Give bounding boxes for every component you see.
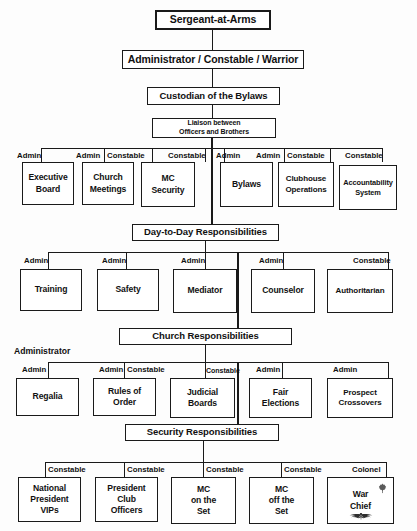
node-administrator-constable-warrior[interactable]: Administrator / Constable / Warrior bbox=[122, 50, 304, 69]
node-sergeant-at-arms[interactable]: Sergeant-at-Arms bbox=[155, 10, 271, 30]
role-caption-constable: Constable bbox=[107, 152, 145, 160]
node-accountability-system[interactable]: Accountability System bbox=[339, 165, 397, 210]
role-caption-constable: Constable bbox=[168, 152, 206, 160]
role-caption-admin: Admin bbox=[256, 152, 280, 160]
drop-row4-b bbox=[124, 462, 125, 477]
node-label-line2: Crossovers bbox=[336, 398, 383, 408]
header-security-responsibilities[interactable]: Security Responsibilities bbox=[125, 424, 279, 441]
node-label-line2: off the bbox=[267, 495, 297, 506]
bus-row1-left bbox=[41, 148, 211, 149]
node-label-line2: Order bbox=[111, 397, 138, 408]
role-caption-constable: Constable bbox=[206, 466, 244, 474]
eagle-insignia-icon bbox=[348, 511, 374, 521]
node-safety[interactable]: Safety bbox=[97, 269, 159, 311]
node-label: Counselor bbox=[260, 285, 306, 296]
node-president-club-officers[interactable]: President Club Officers bbox=[95, 477, 158, 522]
role-caption-admin: Admin bbox=[22, 366, 46, 374]
node-label-line2: Chief bbox=[348, 501, 373, 512]
node-national-president-vips[interactable]: National President VIPs bbox=[18, 477, 81, 522]
node-war-chief[interactable]: War Chief bbox=[327, 477, 394, 524]
main-trunk bbox=[211, 138, 213, 226]
drop-row3-a bbox=[48, 362, 49, 378]
node-authoritarian[interactable]: Authoritarian bbox=[327, 269, 393, 313]
node-label-line2: System bbox=[353, 188, 383, 198]
header-church-responsibilities[interactable]: Church Responsibilities bbox=[119, 328, 292, 345]
drop-row1-g bbox=[330, 148, 331, 162]
header-label: Security Responsibilities bbox=[145, 427, 259, 438]
node-executive-board[interactable]: Executive Board bbox=[22, 162, 74, 205]
drop-row3-e bbox=[388, 362, 389, 378]
drop-row1-b bbox=[104, 148, 105, 162]
bus-row1-right bbox=[212, 148, 382, 149]
bus-row2 bbox=[48, 252, 388, 253]
node-label-line2: President bbox=[28, 494, 70, 505]
node-label-line2: Club bbox=[115, 494, 138, 505]
role-caption-admin: Admin bbox=[216, 152, 240, 160]
role-caption-admin: Admin bbox=[99, 366, 123, 374]
node-label: Safety bbox=[113, 284, 142, 295]
role-caption-constable: Constable bbox=[345, 152, 383, 160]
org-chart: Sergeant-at-Arms Administrator / Constab… bbox=[0, 0, 417, 531]
node-liaison[interactable]: Liaison between Officers and Brothers bbox=[152, 118, 276, 138]
node-regalia[interactable]: Regalia bbox=[16, 378, 79, 416]
node-bylaws[interactable]: Bylaws bbox=[220, 162, 273, 207]
node-prospect-crossovers[interactable]: Prospect Crossovers bbox=[327, 378, 393, 418]
node-label-line2: on the bbox=[189, 495, 218, 506]
connector-church-down bbox=[205, 345, 206, 362]
node-mediator[interactable]: Mediator bbox=[173, 269, 237, 313]
drop-row3-b bbox=[124, 362, 125, 378]
node-rules-of-order[interactable]: Rules of Order bbox=[93, 378, 156, 416]
node-label-line1: President bbox=[105, 483, 147, 494]
node-label-line2: Boards bbox=[186, 398, 219, 409]
role-caption-admin: Admin bbox=[17, 152, 41, 160]
node-label-line2: Meetings bbox=[88, 184, 128, 195]
role-caption-admin: Admin bbox=[259, 257, 283, 265]
node-church-meetings[interactable]: Church Meetings bbox=[82, 162, 134, 205]
node-label-line2: Officers and Brothers bbox=[177, 128, 251, 137]
node-label-line1: Church bbox=[91, 172, 124, 183]
role-caption-admin: Admin bbox=[76, 152, 100, 160]
node-label-line3: Officers bbox=[109, 505, 145, 516]
role-caption-admin: Admin bbox=[24, 257, 48, 265]
connector-l3-l4 bbox=[212, 105, 213, 118]
node-label-line2: Operations bbox=[283, 185, 328, 195]
bus-row3 bbox=[48, 362, 388, 363]
node-label: Training bbox=[33, 284, 70, 295]
node-label-line3: VIPs bbox=[38, 505, 60, 516]
drop-row4-a bbox=[45, 462, 46, 477]
node-judicial-boards[interactable]: Judicial Boards bbox=[170, 378, 235, 418]
node-training[interactable]: Training bbox=[20, 269, 82, 311]
node-label-line1: War bbox=[351, 489, 371, 500]
connector-security-down bbox=[203, 441, 204, 462]
node-mc-security[interactable]: MC Security bbox=[141, 162, 195, 207]
node-label-line1: Fair bbox=[271, 387, 290, 398]
node-label: Mediator bbox=[185, 285, 224, 296]
node-label: Administrator / Constable / Warrior bbox=[126, 54, 301, 66]
node-label-line2: Board bbox=[34, 184, 62, 195]
node-label-line1: MC bbox=[159, 173, 176, 184]
node-counselor[interactable]: Counselor bbox=[251, 269, 315, 313]
header-day-to-day-responsibilities[interactable]: Day-to-Day Responsibilities bbox=[132, 224, 279, 241]
drop-row3-d bbox=[282, 362, 283, 378]
node-label-line1: National bbox=[31, 483, 68, 494]
node-mc-off-the-set[interactable]: MC off the Set bbox=[249, 477, 314, 524]
node-mc-on-the-set[interactable]: MC on the Set bbox=[171, 477, 236, 524]
role-caption-constable: Constable bbox=[127, 366, 165, 374]
node-label: Regalia bbox=[31, 391, 65, 402]
role-caption-constable: Constable bbox=[48, 466, 86, 474]
role-caption-colonel: Colonel bbox=[352, 466, 381, 474]
oak-leaf-insignia-icon bbox=[377, 483, 388, 494]
node-label-line3: Set bbox=[273, 506, 290, 517]
node-label-line1: Judicial bbox=[185, 387, 220, 398]
header-label: Church Responsibilities bbox=[150, 331, 260, 342]
main-trunk-2 bbox=[237, 252, 239, 336]
bus-row4 bbox=[45, 462, 386, 463]
header-label: Day-to-Day Responsibilities bbox=[142, 227, 269, 238]
node-label-line1: Liaison between bbox=[186, 119, 243, 128]
role-caption-constable: Constable bbox=[284, 466, 322, 474]
node-custodian-of-bylaws[interactable]: Custodian of the Bylaws bbox=[147, 87, 280, 105]
node-fair-elections[interactable]: Fair Elections bbox=[249, 378, 312, 418]
node-clubhouse-operations[interactable]: Clubhouse Operations bbox=[278, 162, 334, 207]
node-label: Custodian of the Bylaws bbox=[157, 91, 269, 102]
node-label-line1: Executive bbox=[26, 172, 69, 183]
